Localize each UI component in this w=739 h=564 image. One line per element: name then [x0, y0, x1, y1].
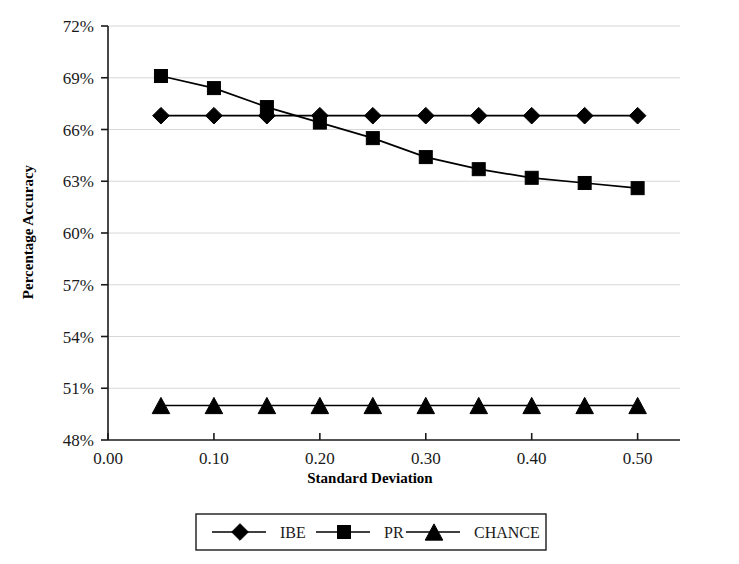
y-axis-title: Percentage Accuracy: [20, 164, 36, 299]
legend-label-pr: PR: [384, 524, 404, 541]
legend-label-ibe: IBE: [280, 524, 306, 541]
x-tick-label-0.30: 0.30: [411, 449, 441, 468]
data-point-pr-0.45: [578, 176, 591, 189]
data-point-pr-0.20: [313, 116, 326, 129]
data-point-pr-0.05: [154, 70, 167, 83]
y-tick-label-63: 63%: [63, 172, 94, 191]
y-tick-label-48: 48%: [63, 431, 94, 450]
legend-marker-pr: [338, 526, 351, 539]
data-point-pr-0.10: [207, 82, 220, 95]
y-tick-labels: 48%51%54%57%60%63%66%69%72%: [63, 17, 94, 450]
y-tick-label-57: 57%: [63, 276, 94, 295]
y-tick-label-60: 60%: [63, 224, 94, 243]
y-tick-label-66: 66%: [63, 121, 94, 140]
percentage-accuracy-line-chart: 48%51%54%57%60%63%66%69%72% 0.000.100.20…: [0, 0, 739, 564]
data-point-pr-0.40: [525, 171, 538, 184]
chart-figure: 48%51%54%57%60%63%66%69%72% 0.000.100.20…: [0, 0, 739, 564]
data-point-pr-0.50: [631, 182, 644, 195]
x-tick-label-0.00: 0.00: [93, 449, 123, 468]
data-point-pr-0.15: [260, 101, 273, 114]
x-axis-title: Standard Deviation: [307, 470, 433, 486]
data-point-pr-0.30: [419, 151, 432, 164]
y-tick-label-54: 54%: [63, 328, 94, 347]
x-tick-label-0.10: 0.10: [199, 449, 229, 468]
y-tick-label-51: 51%: [63, 379, 94, 398]
x-tick-label-0.20: 0.20: [305, 449, 335, 468]
data-point-pr-0.25: [366, 132, 379, 145]
x-tick-label-0.50: 0.50: [623, 449, 653, 468]
x-tick-label-0.40: 0.40: [517, 449, 547, 468]
data-point-pr-0.35: [472, 163, 485, 176]
y-tick-label-72: 72%: [63, 17, 94, 36]
y-tick-label-69: 69%: [63, 69, 94, 88]
legend-label-chance: CHANCE: [474, 524, 540, 541]
chart-legend: IBEPRCHANCE: [196, 514, 546, 550]
